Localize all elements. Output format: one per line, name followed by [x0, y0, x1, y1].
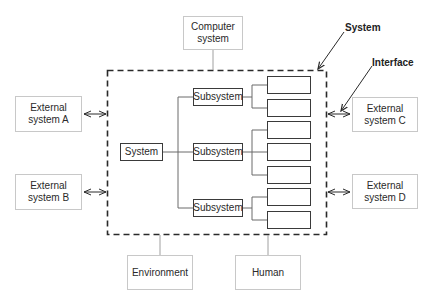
- external-system-d-label: External system D: [359, 180, 411, 204]
- external-system-c-label: External system C: [359, 103, 411, 127]
- subsystem-label: Subsystem: [193, 91, 242, 103]
- subsystem-node-2: Subsystem: [193, 143, 243, 161]
- root-system-label: System: [125, 146, 158, 158]
- subsystem-label: Subsystem: [193, 146, 242, 158]
- leaf-node-7: [267, 211, 311, 229]
- root-system-node: System: [120, 143, 163, 161]
- leaf-node-3: [267, 121, 311, 139]
- leaf-node-4: [267, 143, 311, 161]
- external-system-a-label: External system A: [23, 102, 75, 126]
- computer-system-label: Computer system: [191, 21, 235, 45]
- external-system-b-node: External system B: [15, 174, 82, 210]
- human-label: Human: [252, 267, 284, 279]
- human-node: Human: [235, 255, 301, 290]
- environment-node: Environment: [127, 255, 193, 290]
- environment-label: Environment: [132, 267, 188, 279]
- interface-annotation: Interface: [372, 57, 414, 68]
- external-system-a-node: External system A: [15, 96, 82, 132]
- system-annotation: System: [345, 22, 381, 33]
- external-system-c-node: External system C: [352, 97, 418, 132]
- leaf-node-1: [267, 76, 311, 94]
- external-system-d-node: External system D: [352, 174, 418, 209]
- subsystem-node-1: Subsystem: [193, 88, 243, 106]
- leaf-node-5: [267, 166, 311, 184]
- external-system-b-label: External system B: [23, 180, 75, 204]
- leaf-node-2: [267, 99, 311, 117]
- computer-system-node: Computer system: [183, 16, 243, 50]
- leaf-node-6: [267, 188, 311, 206]
- subsystem-label: Subsystem: [193, 202, 242, 214]
- subsystem-node-3: Subsystem: [193, 199, 243, 217]
